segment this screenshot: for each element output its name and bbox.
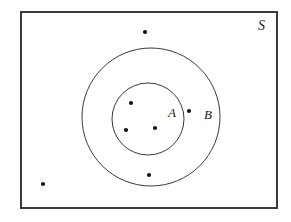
outcome-point [187,109,191,113]
outcome-point [147,173,151,177]
sample-space-label: S [258,19,265,33]
outcome-point [41,182,45,186]
outcome-point [143,30,147,34]
outcome-point [153,126,157,130]
sample-space-rectangle [21,12,277,208]
set-b-circle [82,48,220,186]
set-b-label: B [204,108,212,121]
set-a-label: A [168,106,176,119]
outcome-point [129,101,133,105]
venn-diagram-canvas [0,0,291,222]
venn-diagram-figure: S A B [0,0,291,222]
outcome-point [124,128,128,132]
